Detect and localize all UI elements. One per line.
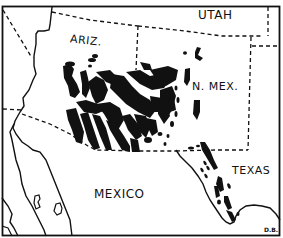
range-map: UTAH ARIZ. N. MEX. TEXAS MEXICO D.B.	[0, 0, 283, 238]
label-texas: TEXAS	[232, 165, 270, 176]
island-1	[34, 195, 40, 209]
coastline-baja-east	[10, 124, 46, 236]
border-newmexico-south	[176, 150, 248, 151]
border-arizona-north	[52, 12, 138, 26]
map-drawing	[0, 0, 283, 238]
coastline-baja-tip	[2, 226, 12, 236]
label-arizona: ARIZ.	[70, 33, 103, 47]
border-california	[3, 10, 32, 58]
range-patches	[63, 47, 240, 222]
border-utah-south	[138, 26, 262, 36]
label-utah: UTAH	[198, 9, 232, 21]
label-new-mexico: N. MEX.	[192, 81, 238, 92]
border-arizona-newmexico	[136, 26, 138, 70]
border-newmexico-texas	[248, 37, 251, 150]
artist-signature: D.B.	[264, 227, 278, 233]
border-us-mexico-west	[3, 109, 22, 110]
island-2	[54, 203, 62, 215]
label-mexico: MEXICO	[94, 188, 145, 200]
coastline-baja-west	[2, 198, 18, 236]
